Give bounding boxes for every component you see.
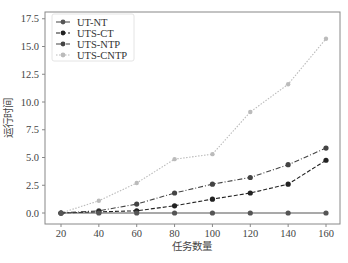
data-point xyxy=(172,210,177,215)
data-point xyxy=(324,37,328,41)
y-tick-label: 17.5 xyxy=(21,13,39,24)
y-tick-label: 7.5 xyxy=(26,124,39,135)
legend-label: UTS-CT xyxy=(77,28,114,39)
data-point xyxy=(286,162,291,167)
data-point xyxy=(134,202,139,207)
data-point xyxy=(172,190,177,195)
x-tick-label: 20 xyxy=(56,228,67,239)
data-point xyxy=(210,182,215,187)
data-point xyxy=(97,199,101,203)
y-tick-label: 0.0 xyxy=(26,208,39,219)
data-point xyxy=(210,197,215,202)
y-axis-title: 运行时间 xyxy=(2,98,14,138)
data-point xyxy=(286,210,291,215)
data-point xyxy=(286,82,290,86)
data-point xyxy=(172,157,176,161)
x-tick-label: 140 xyxy=(280,228,296,239)
data-point xyxy=(286,182,291,187)
legend-marker-icon xyxy=(61,20,66,25)
y-tick-label: 15.0 xyxy=(21,41,39,52)
data-point xyxy=(323,145,328,150)
x-axis-title: 任务数量 xyxy=(172,240,213,252)
legend-marker-icon xyxy=(61,31,66,36)
data-point xyxy=(248,190,253,195)
x-tick-label: 120 xyxy=(242,228,258,239)
data-point xyxy=(172,203,177,208)
data-point xyxy=(323,158,328,163)
x-tick-label: 40 xyxy=(94,228,105,239)
y-tick-label: 5.0 xyxy=(26,152,39,163)
x-tick-label: 80 xyxy=(169,228,180,239)
y-tick-label: 2.5 xyxy=(26,180,39,191)
data-point xyxy=(248,175,253,180)
data-point xyxy=(135,181,139,185)
data-point xyxy=(248,210,253,215)
x-tick-label: 160 xyxy=(318,228,334,239)
line-chart: 0.02.55.07.510.012.515.017.5 20406080100… xyxy=(0,0,348,263)
data-point xyxy=(134,210,139,215)
data-point xyxy=(210,152,214,156)
legend-label: UTS-CNTP xyxy=(77,50,127,61)
data-point xyxy=(210,210,215,215)
y-axis-ticks: 0.02.55.07.510.012.515.017.5 xyxy=(21,13,45,218)
x-tick-label: 100 xyxy=(205,228,221,239)
x-tick-label: 60 xyxy=(131,228,142,239)
legend-label: UT-NT xyxy=(77,17,108,28)
data-point xyxy=(96,210,101,215)
x-axis-ticks: 20406080100120140160 xyxy=(56,224,334,239)
y-tick-label: 12.5 xyxy=(21,69,39,80)
y-tick-label: 10.0 xyxy=(21,97,39,108)
legend: UT-NTUTS-CTUTS-NTPUTS-CNTP xyxy=(52,14,134,61)
legend-marker-icon xyxy=(61,42,66,47)
legend-marker-icon xyxy=(61,53,66,58)
data-point xyxy=(248,110,252,114)
data-point xyxy=(323,210,328,215)
data-point xyxy=(58,210,63,215)
legend-label: UTS-NTP xyxy=(77,39,120,50)
